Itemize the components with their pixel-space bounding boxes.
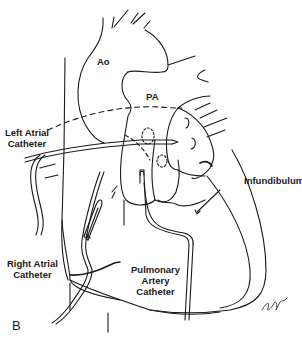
pulmonary-artery-catheter-label-line1: Pulmonary <box>131 264 180 275</box>
la-catheter-loop-a <box>31 155 40 235</box>
aortic-arch <box>145 30 168 65</box>
aortic-branch-1 <box>112 10 128 28</box>
small-v-mark <box>198 70 208 82</box>
ra-crossing-curve <box>70 262 120 275</box>
aortic-arch-line <box>168 56 195 65</box>
la-small-curve-1 <box>185 118 189 128</box>
rv-small-branch <box>112 186 117 198</box>
pulmonary-artery-label: PA <box>146 91 159 102</box>
left-atrium-right <box>178 108 214 178</box>
infundibulum-label: Infundibulum <box>244 175 302 186</box>
dashed-pa-line <box>48 107 182 130</box>
la-hatch-left-2 <box>45 175 58 178</box>
aorta-outline <box>78 18 104 143</box>
infundibulum-wave <box>158 200 205 206</box>
pulmonary-artery-top <box>128 66 168 72</box>
dashed-valve-2 <box>157 155 167 167</box>
infundibulum-pointer <box>197 190 220 212</box>
panel-label: B <box>12 318 21 333</box>
aorta-label: Ao <box>97 56 110 67</box>
la-hatch-left-1 <box>40 164 55 168</box>
pulmonary-artery-catheter-label-line3: Catheter <box>131 286 180 297</box>
heart-catheter-diagram: Ao PA Left Atrial Catheter Infundibulum … <box>0 0 302 340</box>
la-hatching-2 <box>200 110 217 118</box>
dashed-inner <box>125 135 150 160</box>
la-hatching-1 <box>195 103 210 110</box>
left-atrium-outline <box>178 96 210 108</box>
left-atrial-catheter-label-line1: Left Atrial <box>5 127 49 138</box>
pulmonary-artery-catheter-label: Pulmonary Artery Catheter <box>131 264 180 297</box>
la-mark <box>200 162 212 166</box>
la-hatching-4 <box>207 130 225 137</box>
rv-bottom <box>155 160 179 202</box>
artist-signature <box>262 298 287 310</box>
left-atrial-catheter-label-line2: Catheter <box>5 138 49 149</box>
pa-catheter-a <box>140 171 189 320</box>
pa-left-curve <box>122 72 131 140</box>
left-atrium-body <box>166 108 178 170</box>
aortic-branch-3 <box>144 21 150 28</box>
pulmonary-artery-catheter-label-line2: Artery <box>131 275 180 286</box>
rv-outline-left <box>121 140 156 205</box>
right-atrial-catheter-label: Right Atrial Catheter <box>7 258 58 280</box>
la-small-curve-2 <box>191 138 195 149</box>
right-atrial-catheter-label-line1: Right Atrial <box>7 258 58 269</box>
ra-catheter-a <box>52 172 100 323</box>
la-catheter-tip <box>172 140 178 144</box>
sept-to-lv <box>178 170 205 176</box>
right-atrial-catheter-label-line2: Catheter <box>7 269 58 280</box>
aortic-branch-2 <box>131 13 145 24</box>
dashed-valve-1 <box>142 128 154 144</box>
la-hatching-3 <box>204 118 227 127</box>
rv-outline-mid <box>152 140 155 200</box>
left-atrial-catheter-label: Left Atrial Catheter <box>5 127 49 149</box>
